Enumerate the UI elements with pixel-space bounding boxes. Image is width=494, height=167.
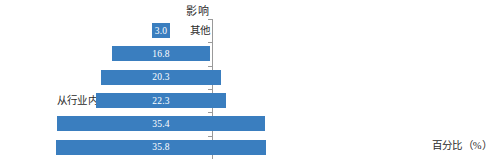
- chart-row: 从行业内的其他机构转入现在机构22.3: [0, 89, 494, 112]
- axis-tick: [208, 136, 213, 137]
- x-axis-label: 百分比（%）: [432, 140, 492, 152]
- chart-row: 没有影响35.4: [0, 112, 494, 135]
- bar[interactable]: 3.0: [152, 23, 170, 38]
- bar[interactable]: 20.3: [101, 70, 220, 85]
- bar-value-label: 16.8: [152, 49, 169, 59]
- bar-value-label: 3.0: [155, 26, 167, 36]
- bar-chart: 影响 其他3.0从自然教育行业转出16.8从其他行业转入20.3从行业内的其他机…: [0, 0, 494, 167]
- bar-value-label: 20.3: [152, 72, 169, 82]
- axis-tick: [208, 89, 213, 90]
- chart-row: 同一个机构，工作职能发生改变35.8: [0, 136, 494, 159]
- bar-container: 3.0: [0, 19, 494, 42]
- bar-container: 20.3: [0, 66, 494, 89]
- chart-row: 从其他行业转入20.3: [0, 66, 494, 89]
- bar[interactable]: 22.3: [96, 93, 227, 108]
- axis-tick: [208, 66, 213, 67]
- bar-container: 35.4: [0, 112, 494, 135]
- chart-row: 其他3.0: [0, 19, 494, 42]
- bar-value-label: 22.3: [152, 96, 169, 106]
- bar[interactable]: 35.4: [57, 116, 265, 131]
- axis-tick: [208, 19, 213, 20]
- category-label: 其他: [190, 25, 214, 37]
- bar[interactable]: 35.8: [56, 140, 266, 155]
- axis-tick: [208, 42, 213, 43]
- bar[interactable]: 16.8: [112, 46, 211, 61]
- bar-container: 35.8: [0, 136, 494, 159]
- axis-tick: [208, 112, 213, 113]
- y-axis-title: 影响: [0, 5, 209, 17]
- bar-value-label: 35.4: [152, 119, 169, 129]
- chart-row: 从自然教育行业转出16.8: [0, 42, 494, 65]
- chart-plot-area: 其他3.0从自然教育行业转出16.8从其他行业转入20.3从行业内的其他机构转入…: [0, 19, 494, 159]
- bar-value-label: 35.8: [152, 142, 169, 152]
- bar-container: 16.8: [0, 42, 494, 65]
